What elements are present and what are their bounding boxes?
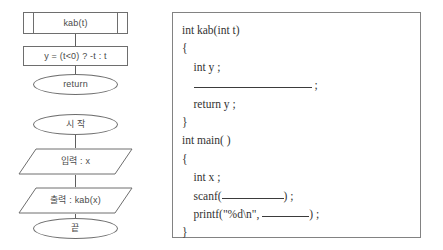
io-output-label: 출력 : kab(x) bbox=[50, 196, 101, 205]
io-node-output[interactable]: 출력 : kab(x) bbox=[18, 187, 133, 214]
code-line: ; bbox=[182, 76, 420, 94]
blank-fill-field[interactable] bbox=[194, 87, 312, 88]
code-line: scanf() ; bbox=[182, 187, 420, 205]
terminator-node-end[interactable]: 끝 bbox=[33, 218, 118, 239]
code-line: int y ; bbox=[182, 58, 420, 76]
terminator-end-label: 끝 bbox=[71, 224, 79, 233]
code-listing: int kab(int t){ int y ; ; return y ;}int… bbox=[173, 13, 420, 242]
code-line: { bbox=[182, 150, 420, 168]
connector-start-to-input bbox=[75, 135, 76, 148]
terminator-start-label: 시 작 bbox=[66, 120, 85, 129]
subroutine-label: kab(t) bbox=[63, 19, 87, 28]
process-node-abs-assignment[interactable]: y = (t<0) ? -t : t bbox=[23, 46, 128, 66]
blank-fill-field[interactable] bbox=[222, 198, 284, 199]
connector-subroutine-to-process bbox=[75, 34, 76, 46]
process-label: y = (t<0) ? -t : t bbox=[44, 52, 107, 61]
connector-process-to-return bbox=[75, 66, 76, 74]
code-line: { bbox=[182, 39, 420, 57]
code-panel: int kab(int t){ int y ; ; return y ;}int… bbox=[172, 12, 421, 238]
code-line: int x ; bbox=[182, 168, 420, 186]
code-line: int kab(int t) bbox=[182, 21, 420, 39]
code-line: } bbox=[182, 113, 420, 131]
code-line: } bbox=[182, 223, 420, 241]
subroutine-left-bar bbox=[33, 13, 34, 33]
subroutine-node-kab[interactable]: kab(t) bbox=[23, 12, 128, 34]
terminator-node-return[interactable]: return bbox=[33, 74, 118, 95]
io-node-input[interactable]: 입력 : x bbox=[18, 148, 133, 175]
blank-fill-field[interactable] bbox=[262, 216, 309, 217]
terminator-node-start[interactable]: 시 작 bbox=[33, 114, 118, 135]
code-line: return y ; bbox=[182, 95, 420, 113]
subroutine-right-bar bbox=[117, 13, 118, 33]
flowchart-column: kab(t) y = (t<0) ? -t : t return 시 작 입력 … bbox=[0, 0, 165, 250]
terminator-return-label: return bbox=[63, 80, 88, 89]
io-input-label: 입력 : x bbox=[61, 157, 90, 166]
connector-input-to-output bbox=[75, 175, 76, 187]
code-line: int main( ) bbox=[182, 131, 420, 149]
code-line: printf("%d\n", ) ; bbox=[182, 205, 420, 223]
